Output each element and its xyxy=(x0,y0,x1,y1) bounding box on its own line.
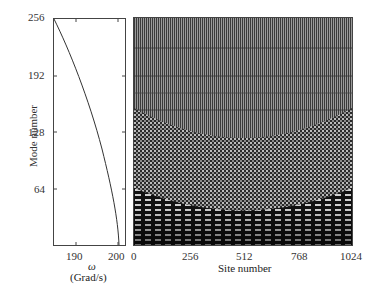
y-tick-128: 128 xyxy=(28,126,45,138)
x-tick-1024: 1024 xyxy=(340,250,362,262)
x-tick-0: 0 xyxy=(131,250,137,262)
dispersion-curve xyxy=(54,19,125,245)
x-tick-768: 768 xyxy=(291,250,308,262)
dispersion-plot xyxy=(53,18,126,246)
omega-unit-label: (Grad/s) xyxy=(70,271,107,283)
x-tick-200: 200 xyxy=(108,250,125,262)
heatmap-image xyxy=(134,18,352,245)
mode-heatmap xyxy=(133,17,353,246)
y-tick-64: 64 xyxy=(34,183,45,195)
y-tick-192: 192 xyxy=(28,69,45,81)
x-tick-512: 512 xyxy=(236,250,253,262)
y-tick-256: 256 xyxy=(28,11,45,23)
site-number-label: Site number xyxy=(218,262,271,274)
x-tick-190: 190 xyxy=(66,250,83,262)
x-tick-256: 256 xyxy=(182,250,199,262)
